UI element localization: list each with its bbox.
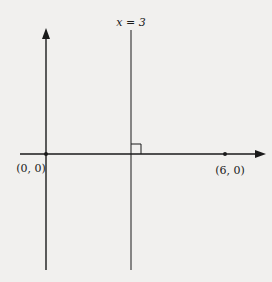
point-6-0 — [223, 152, 227, 156]
line-label: x = 3 — [116, 16, 145, 29]
y-axis-arrow-icon — [42, 28, 50, 39]
point-label: (6, 0) — [215, 164, 245, 177]
x-axis-arrow-icon — [255, 150, 266, 158]
origin-label: (0, 0) — [16, 162, 46, 175]
right-angle-marker — [131, 144, 141, 154]
coordinate-diagram: x = 3 (0, 0) (6, 0) — [0, 0, 272, 282]
origin-point — [44, 152, 48, 156]
